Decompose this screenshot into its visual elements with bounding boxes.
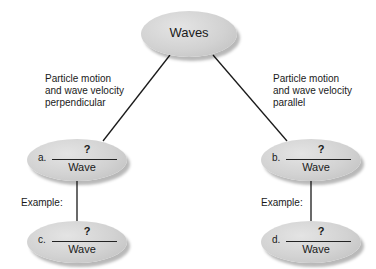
example-label-left: Example:: [21, 197, 63, 209]
root-node-label: Waves: [141, 25, 237, 40]
branch-label-perpendicular: Particle motion and wave velocity perpen…: [45, 73, 124, 109]
blank-line: [52, 241, 117, 242]
node-blank: ?: [291, 225, 351, 237]
node-c: c. ? Wave: [27, 221, 127, 263]
node-blank: ?: [57, 143, 117, 155]
branch-label-line: and wave velocity: [45, 85, 124, 97]
branch-label-parallel: Particle motion and wave velocity parall…: [273, 73, 352, 109]
node-d: d. ? Wave: [261, 221, 361, 263]
node-letter: b.: [272, 152, 280, 163]
blank-line: [52, 159, 117, 160]
blank-line: [286, 159, 351, 160]
node-a: a. ? Wave: [27, 139, 127, 181]
node-letter: a.: [38, 152, 46, 163]
node-wave-label: Wave: [281, 243, 351, 255]
node-letter: c.: [38, 234, 46, 245]
root-node-waves: Waves: [141, 11, 237, 57]
node-blank: ?: [291, 143, 351, 155]
node-wave-label: Wave: [47, 243, 117, 255]
branch-label-line: and wave velocity: [273, 85, 352, 97]
branch-label-line: parallel: [273, 97, 352, 109]
example-label-right: Example:: [261, 197, 303, 209]
branch-label-line: Particle motion: [273, 73, 352, 85]
node-blank: ?: [57, 225, 117, 237]
node-wave-label: Wave: [281, 161, 351, 173]
node-wave-label: Wave: [47, 161, 117, 173]
branch-label-line: perpendicular: [45, 97, 124, 109]
node-b: b. ? Wave: [261, 139, 361, 181]
node-letter: d.: [272, 234, 280, 245]
blank-line: [286, 241, 351, 242]
branch-label-line: Particle motion: [45, 73, 124, 85]
